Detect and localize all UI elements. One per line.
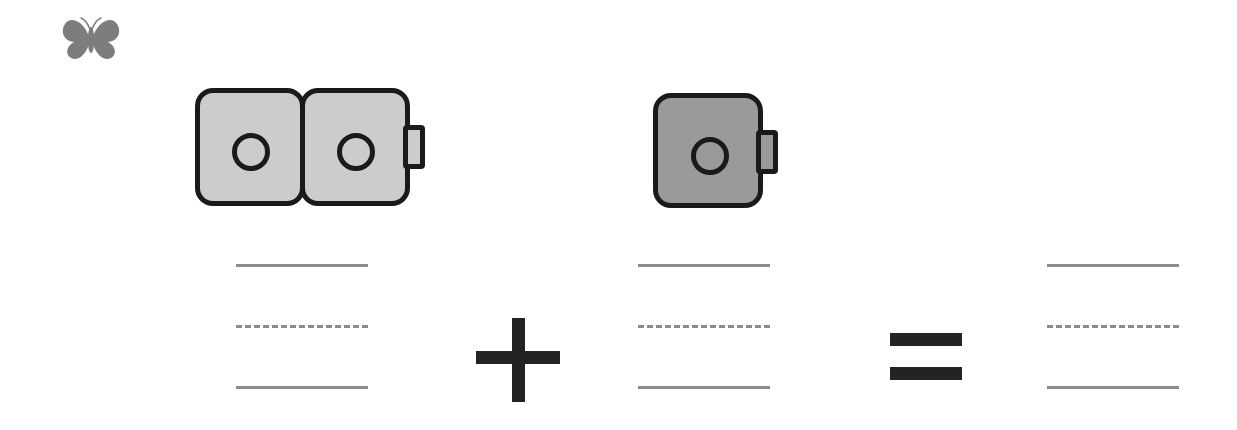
cube-group-addend-1[interactable] [195, 86, 435, 208]
cube-group-addend-2[interactable] [653, 90, 783, 212]
equals-lower-bar [890, 367, 962, 380]
equals-upper-bar [890, 333, 962, 346]
butterfly-icon [60, 8, 122, 70]
answer-lines-sum[interactable] [1047, 264, 1179, 396]
guide-line-middle-dashed [236, 325, 368, 328]
worksheet-page [0, 0, 1237, 430]
cube-connector-tab [403, 125, 425, 169]
equals-operator-icon [890, 333, 962, 383]
answer-lines-addend-1[interactable] [236, 264, 368, 396]
guide-line-bottom [236, 386, 368, 389]
cube-block [653, 93, 763, 208]
plus-vertical-bar [512, 318, 525, 402]
cube-hole-icon [337, 133, 375, 171]
guide-line-middle-dashed [1047, 325, 1179, 328]
cube-hole-icon [232, 133, 270, 171]
guide-line-top [638, 264, 770, 267]
guide-line-bottom [1047, 386, 1179, 389]
guide-line-bottom [638, 386, 770, 389]
guide-line-top [236, 264, 368, 267]
cube-connector-tab [756, 130, 778, 174]
answer-lines-addend-2[interactable] [638, 264, 770, 396]
cube-block [195, 88, 305, 206]
plus-operator-icon [476, 318, 560, 402]
cube-hole-icon [691, 137, 729, 175]
cube-block [300, 88, 410, 206]
guide-line-top [1047, 264, 1179, 267]
guide-line-middle-dashed [638, 325, 770, 328]
